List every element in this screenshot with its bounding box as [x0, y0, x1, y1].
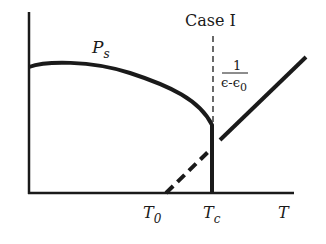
- tick-tc: Tc: [203, 203, 221, 226]
- phase-transition-diagram: Case I Ps 1 ϵ-ϵ0 T0 Tc T: [0, 0, 326, 244]
- ps-label: Ps: [91, 37, 110, 61]
- fraction-numerator: 1: [233, 58, 241, 73]
- ps-curve: [29, 63, 212, 193]
- x-axis-label: T: [278, 203, 290, 222]
- tick-t0: T0: [143, 203, 162, 226]
- fraction-denominator: ϵ-ϵ0: [221, 75, 247, 94]
- inverse-susceptibility-dashed: [166, 152, 208, 193]
- title: Case I: [185, 11, 236, 30]
